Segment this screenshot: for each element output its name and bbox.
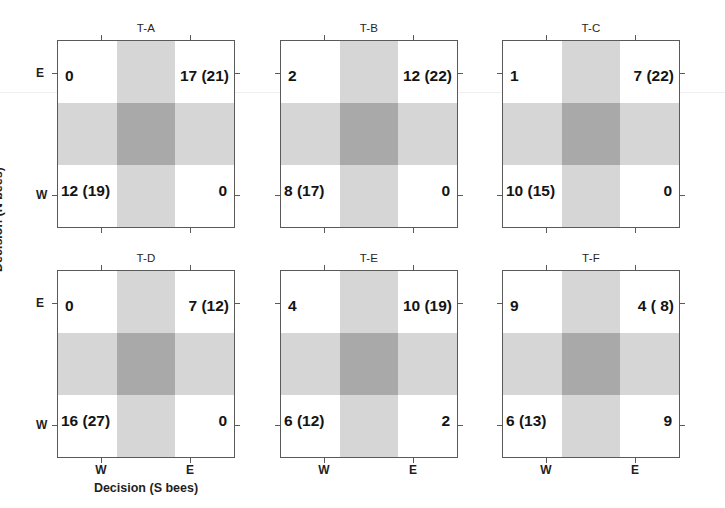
x-tick-e-top [635, 265, 636, 270]
y-tick-e-right [235, 303, 240, 304]
y-tick-w-right [235, 195, 240, 196]
y-tick-e [497, 73, 502, 74]
x-tick-w-top [101, 35, 102, 40]
y-ticklabel-e: E [36, 297, 44, 309]
x-tick-e-bottom [635, 228, 636, 233]
panel-t-e: T-E 4 10 (19) 6 (12) 2 W E [280, 270, 458, 458]
x-ticklabel-w: W [95, 464, 106, 476]
y-tick-w-right [458, 195, 463, 196]
y-tick-e-right [235, 73, 240, 74]
x-ticklabel-w: W [540, 464, 551, 476]
y-tick-e [52, 73, 57, 74]
panel-t-d: T-D 0 7 (12) 16 (27) 0 E W W E [57, 270, 235, 458]
cell-value-bottom-left: 12 (19) [61, 183, 110, 199]
panel-title-t-a: T-A [57, 22, 235, 34]
cell-value-bottom-right: 2 [441, 413, 450, 429]
y-tick-w [52, 425, 57, 426]
x-ticklabel-e: E [409, 464, 417, 476]
band-center-square [340, 333, 399, 395]
y-tick-e [497, 303, 502, 304]
panel-title-t-b: T-B [280, 22, 458, 34]
panel-t-a: T-A 0 17 (21) 12 (19) 0 E W [57, 40, 235, 228]
x-tick-w-top [324, 265, 325, 270]
band-center-square [117, 103, 176, 165]
y-tick-w-right [458, 425, 463, 426]
x-tick-w-bottom [324, 228, 325, 233]
panel-title-t-c: T-C [502, 22, 680, 34]
x-tick-e-bottom [190, 228, 191, 233]
x-tick-e-top [635, 35, 636, 40]
y-tick-w [52, 195, 57, 196]
y-tick-w-right [680, 195, 685, 196]
cell-value-top-left: 0 [65, 68, 74, 84]
cell-value-bottom-left: 6 (13) [506, 413, 547, 429]
cell-value-bottom-right: 0 [218, 413, 227, 429]
x-tick-w-bottom [546, 228, 547, 233]
y-tick-e [275, 303, 280, 304]
cell-value-top-right: 7 (22) [634, 68, 675, 84]
cell-value-top-left: 2 [288, 68, 297, 84]
cell-value-bottom-left: 10 (15) [506, 183, 555, 199]
cell-value-bottom-left: 8 (17) [284, 183, 325, 199]
cell-value-bottom-right: 0 [218, 183, 227, 199]
y-tick-e [275, 73, 280, 74]
cell-value-bottom-right: 0 [663, 183, 672, 199]
cell-value-top-right: 4 ( 8) [638, 298, 674, 314]
x-ticklabel-w: W [318, 464, 329, 476]
y-tick-e [52, 303, 57, 304]
x-tick-e-bottom [413, 228, 414, 233]
cell-value-top-left: 9 [510, 298, 519, 314]
x-tick-e-top [413, 35, 414, 40]
panel-t-c: T-C 1 7 (22) 10 (15) 0 [502, 40, 680, 228]
cell-value-top-right: 7 (12) [189, 298, 230, 314]
x-tick-w-top [324, 35, 325, 40]
x-tick-e-top [190, 265, 191, 270]
x-tick-e-top [190, 35, 191, 40]
cell-value-bottom-right: 9 [663, 413, 672, 429]
x-ticklabel-e: E [186, 464, 194, 476]
y-tick-w-right [235, 425, 240, 426]
x-tick-w-top [546, 35, 547, 40]
y-tick-e-right [458, 73, 463, 74]
y-axis-label: Decision (N bees) [0, 72, 5, 272]
y-tick-w [275, 195, 280, 196]
panel-t-f: T-F 9 4 ( 8) 6 (13) 9 W E [502, 270, 680, 458]
x-tick-w-top [101, 265, 102, 270]
band-center-square [117, 333, 176, 395]
cell-value-bottom-left: 6 (12) [284, 413, 325, 429]
y-tick-w [275, 425, 280, 426]
cell-value-top-left: 1 [510, 68, 519, 84]
cell-value-top-left: 4 [288, 298, 297, 314]
x-tick-w-bottom [101, 228, 102, 233]
y-ticklabel-w: W [36, 419, 47, 431]
y-tick-w [497, 425, 502, 426]
panel-title-t-f: T-F [502, 252, 680, 264]
cell-value-bottom-left: 16 (27) [61, 413, 110, 429]
band-center-square [340, 103, 399, 165]
cell-value-top-right: 12 (22) [403, 68, 452, 84]
x-axis-label: Decision (S bees) [57, 481, 235, 495]
panel-t-b: T-B 2 12 (22) 8 (17) 0 [280, 40, 458, 228]
y-ticklabel-e: E [36, 67, 44, 79]
band-center-square [562, 103, 621, 165]
x-ticklabel-e: E [631, 464, 639, 476]
x-tick-e-top [413, 265, 414, 270]
figure-canvas: T-A 0 17 (21) 12 (19) 0 E W T-B 2 12 (22… [0, 0, 725, 508]
y-tick-w [497, 195, 502, 196]
panel-title-t-e: T-E [280, 252, 458, 264]
y-tick-e-right [458, 303, 463, 304]
y-ticklabel-w: W [36, 189, 47, 201]
panel-title-t-d: T-D [57, 252, 235, 264]
y-tick-w-right [680, 425, 685, 426]
y-tick-e-right [680, 73, 685, 74]
cell-value-bottom-right: 0 [441, 183, 450, 199]
x-tick-w-top [546, 265, 547, 270]
band-center-square [562, 333, 621, 395]
y-tick-e-right [680, 303, 685, 304]
cell-value-top-right: 10 (19) [403, 298, 452, 314]
cell-value-top-left: 0 [65, 298, 74, 314]
cell-value-top-right: 17 (21) [180, 68, 229, 84]
